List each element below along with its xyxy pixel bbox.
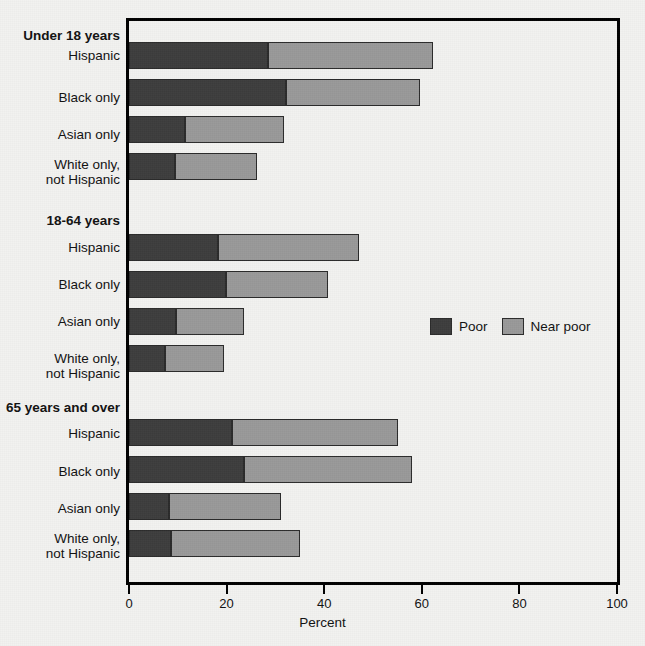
bar-segment-near-poor-1864-hispanic xyxy=(218,234,359,261)
x-tick-20 xyxy=(226,585,228,594)
legend-item-poor: Poor xyxy=(430,318,488,335)
x-tick-label-60: 60 xyxy=(415,596,429,611)
x-tick-label-20: 20 xyxy=(219,596,233,611)
group-header-18-64: 18-64 years xyxy=(0,213,120,228)
bar-row-under18-white-only xyxy=(129,153,257,180)
bar-segment-poor-1864-white-only xyxy=(129,345,165,372)
bar-segment-poor-under18-hispanic xyxy=(129,42,268,69)
bar-segment-poor-1864-black-only xyxy=(129,271,226,298)
bar-segment-poor-under18-white-only xyxy=(129,153,175,180)
bar-row-under18-asian-only xyxy=(129,116,284,143)
category-label-under18-asian-only: Asian only xyxy=(0,127,120,142)
x-tick-label-80: 80 xyxy=(512,596,526,611)
x-tick-0 xyxy=(128,585,130,594)
category-label-1864-hispanic: Hispanic xyxy=(0,240,120,255)
bar-segment-poor-65-hispanic xyxy=(129,419,232,446)
category-label-white-only-line2: not Hispanic xyxy=(0,172,120,187)
bar-segment-near-poor-under18-black-only xyxy=(286,79,420,106)
category-label-white-only-line1: White only, xyxy=(0,531,120,546)
bar-row-65-hispanic xyxy=(129,419,398,446)
category-label-65-asian-only: Asian only xyxy=(0,501,120,516)
bar-segment-near-poor-65-hispanic xyxy=(232,419,398,446)
legend-swatch-near-poor-icon xyxy=(502,318,524,335)
x-tick-40 xyxy=(323,585,325,594)
bar-row-1864-black-only xyxy=(129,271,328,298)
category-label-white-only-line1: White only, xyxy=(0,157,120,172)
bar-segment-near-poor-65-white-only xyxy=(171,530,300,557)
x-axis-title: Percent xyxy=(0,615,645,630)
x-tick-label-40: 40 xyxy=(317,596,331,611)
bar-row-1864-white-only xyxy=(129,345,224,372)
category-label-white-only-line2: not Hispanic xyxy=(0,546,120,561)
bar-row-under18-black-only xyxy=(129,79,420,106)
category-label-1864-black-only: Black only xyxy=(0,277,120,292)
bar-row-1864-hispanic xyxy=(129,234,359,261)
legend-label-poor: Poor xyxy=(459,319,488,334)
bar-row-under18-hispanic xyxy=(129,42,433,69)
group-header-65-and-over: 65 years and over xyxy=(0,400,120,415)
category-label-65-white-only: White only, not Hispanic xyxy=(0,531,120,561)
category-label-white-only-line2: not Hispanic xyxy=(0,366,120,381)
bar-segment-poor-65-white-only xyxy=(129,530,171,557)
bar-segment-poor-65-black-only xyxy=(129,456,244,483)
bar-segment-near-poor-1864-black-only xyxy=(226,271,328,298)
bar-row-65-white-only xyxy=(129,530,300,557)
bar-row-65-asian-only xyxy=(129,493,281,520)
legend-label-near-poor: Near poor xyxy=(531,319,591,334)
x-tick-60 xyxy=(421,585,423,594)
category-label-65-black-only: Black only xyxy=(0,464,120,479)
legend-swatch-poor-icon xyxy=(430,318,452,335)
category-label-1864-asian-only: Asian only xyxy=(0,314,120,329)
bar-row-65-black-only xyxy=(129,456,412,483)
bars-container xyxy=(129,21,617,582)
category-label-65-hispanic: Hispanic xyxy=(0,426,120,441)
category-label-1864-white-only: White only, not Hispanic xyxy=(0,351,120,381)
x-tick-label-0: 0 xyxy=(125,596,132,611)
bar-segment-poor-65-asian-only xyxy=(129,493,169,520)
legend-item-near-poor: Near poor xyxy=(502,318,591,335)
bar-segment-poor-1864-hispanic xyxy=(129,234,218,261)
category-label-white-only-line1: White only, xyxy=(0,351,120,366)
bar-segment-near-poor-65-asian-only xyxy=(169,493,282,520)
bar-segment-near-poor-under18-hispanic xyxy=(268,42,433,69)
x-tick-80 xyxy=(518,585,520,594)
category-label-under18-white-only: White only, not Hispanic xyxy=(0,157,120,187)
x-tick-100 xyxy=(616,585,618,594)
bar-segment-near-poor-under18-white-only xyxy=(175,153,256,180)
bar-segment-near-poor-1864-white-only xyxy=(165,345,224,372)
poverty-status-stacked-bar-chart: Under 18 years Hispanic Black only Asian… xyxy=(0,0,645,646)
bar-segment-poor-under18-black-only xyxy=(129,79,286,106)
bar-row-1864-asian-only xyxy=(129,308,244,335)
bar-segment-poor-under18-asian-only xyxy=(129,116,185,143)
x-tick-label-100: 100 xyxy=(606,596,628,611)
bar-segment-near-poor-under18-asian-only xyxy=(185,116,284,143)
bar-segment-near-poor-65-black-only xyxy=(244,456,412,483)
bar-segment-poor-1864-asian-only xyxy=(129,308,176,335)
chart-legend: Poor Near poor xyxy=(430,318,591,335)
category-label-under18-hispanic: Hispanic xyxy=(0,48,120,63)
group-header-under-18: Under 18 years xyxy=(0,28,120,43)
bar-segment-near-poor-1864-asian-only xyxy=(176,308,244,335)
category-label-under18-black-only: Black only xyxy=(0,90,120,105)
